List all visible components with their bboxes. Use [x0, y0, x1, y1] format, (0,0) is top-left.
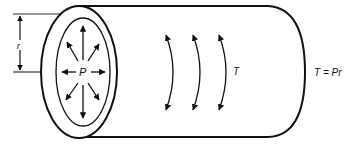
equation-label: T = Pr [314, 67, 342, 78]
tension-label: T [233, 66, 240, 77]
radius-label: r [17, 41, 21, 51]
tension-arrows [166, 35, 226, 110]
pressure-label: P [79, 66, 87, 78]
cylinder-diagram: r P T T = Pr [0, 0, 359, 150]
